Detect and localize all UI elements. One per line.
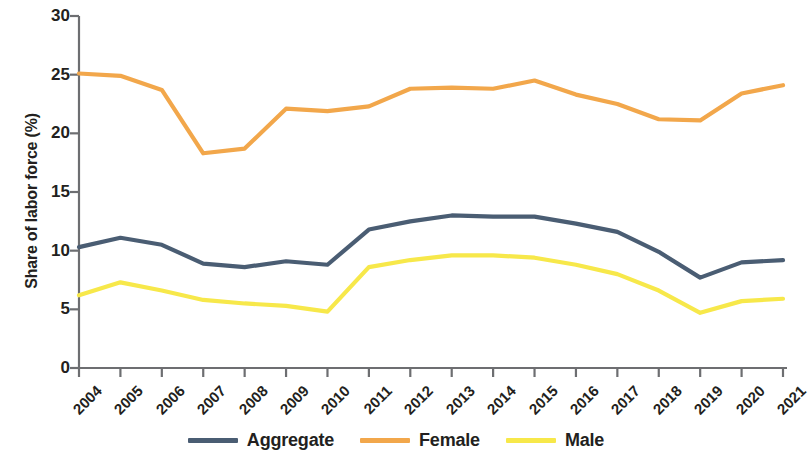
y-axis-tick-label: 15: [8, 183, 70, 200]
y-axis-tick-label: 5: [8, 300, 70, 317]
y-axis-tick-labels: 051015202530: [0, 0, 70, 460]
y-axis-tick-label: 10: [8, 242, 70, 259]
legend-label: Aggregate: [247, 430, 334, 451]
legend-label: Male: [565, 430, 604, 451]
y-axis-tick-label: 30: [8, 7, 70, 24]
series-line-aggregate: [79, 215, 783, 277]
y-axis-tick-label: 0: [8, 359, 70, 376]
y-axis-tick-label: 20: [8, 124, 70, 141]
legend-label: Female: [419, 430, 480, 451]
legend-swatch-female: [360, 438, 410, 443]
legend-swatch-male: [506, 438, 556, 443]
chart-legend: AggregateFemaleMale: [0, 430, 792, 451]
legend-item-female[interactable]: Female: [360, 430, 480, 451]
legend-item-aggregate[interactable]: Aggregate: [188, 430, 334, 451]
y-axis-tick-label: 25: [8, 66, 70, 83]
series-line-female: [79, 73, 783, 153]
legend-swatch-aggregate: [188, 438, 238, 443]
legend-item-male[interactable]: Male: [506, 430, 604, 451]
